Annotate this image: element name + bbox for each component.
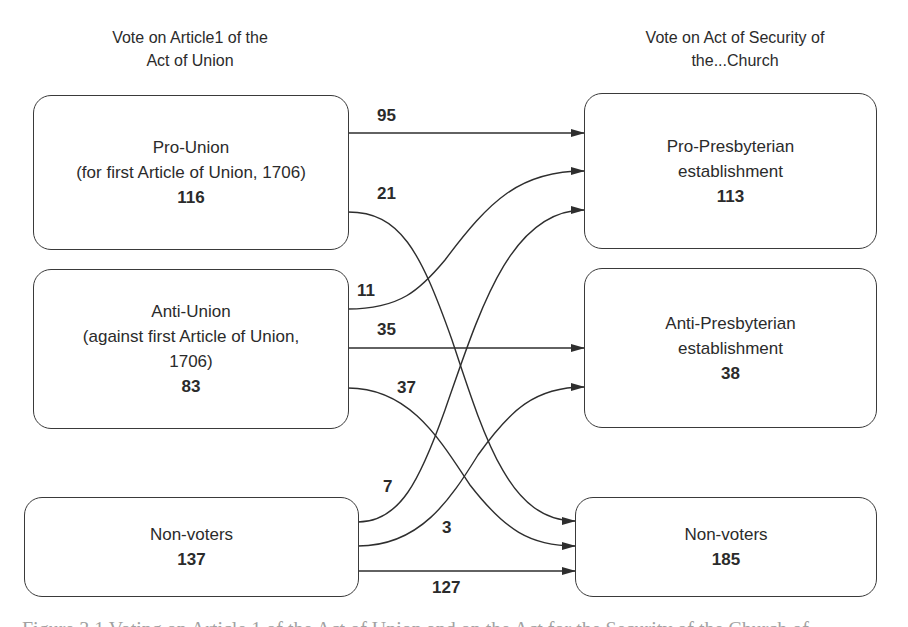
node-count: 116 xyxy=(177,185,204,210)
node-subtitle: establishment xyxy=(678,159,783,184)
flow-arrow-non-voters-to-anti-presbyterian xyxy=(358,387,584,546)
flow-label-7: 7 xyxy=(383,477,392,497)
node-title: Pro-Presbyterian xyxy=(667,134,795,159)
node-title: Non-voters xyxy=(684,522,767,547)
flow-label-35: 35 xyxy=(377,320,396,340)
flow-label-21: 21 xyxy=(377,184,396,204)
node-title: Anti-Presbyterian xyxy=(665,311,795,336)
node-anti-presbyterian: Anti-Presbyterian establishment 38 xyxy=(584,268,877,428)
node-subtitle: establishment xyxy=(678,336,783,361)
flow-arrow-anti-union-to-non-voters xyxy=(348,388,575,546)
flow-arrow-non-voters-to-pro-presbyterian xyxy=(358,210,584,522)
figure-caption: Figure 3.1 Voting on Article 1 of the Ac… xyxy=(22,617,902,627)
node-pro-union: Pro-Union (for first Article of Union, 1… xyxy=(33,95,349,250)
node-title: Pro-Union xyxy=(153,135,230,160)
node-pro-presbyterian: Pro-Presbyterian establishment 113 xyxy=(584,93,877,249)
node-anti-union: Anti-Union (against first Article of Uni… xyxy=(33,269,349,429)
node-subtitle: (for first Article of Union, 1706) xyxy=(76,160,306,185)
node-count: 185 xyxy=(712,547,740,572)
node-non-voters-right: Non-voters 185 xyxy=(575,497,877,597)
node-subtitle: (against first Article of Union, xyxy=(83,324,299,349)
node-title: Anti-Union xyxy=(151,299,230,324)
node-non-voters-left: Non-voters 137 xyxy=(24,497,359,597)
flow-label-37: 37 xyxy=(397,378,416,398)
node-count: 113 xyxy=(717,184,744,209)
node-subtitle-cont: 1706) xyxy=(169,349,212,374)
node-title: Non-voters xyxy=(150,522,233,547)
flow-label-95: 95 xyxy=(377,106,396,126)
node-count: 83 xyxy=(182,374,201,399)
flow-label-11: 11 xyxy=(357,281,375,301)
flow-arrow-pro-union-to-non-voters xyxy=(348,212,575,521)
node-count: 137 xyxy=(177,547,205,572)
flow-label-3: 3 xyxy=(442,518,451,538)
node-count: 38 xyxy=(721,361,740,386)
flow-label-127: 127 xyxy=(432,578,460,598)
